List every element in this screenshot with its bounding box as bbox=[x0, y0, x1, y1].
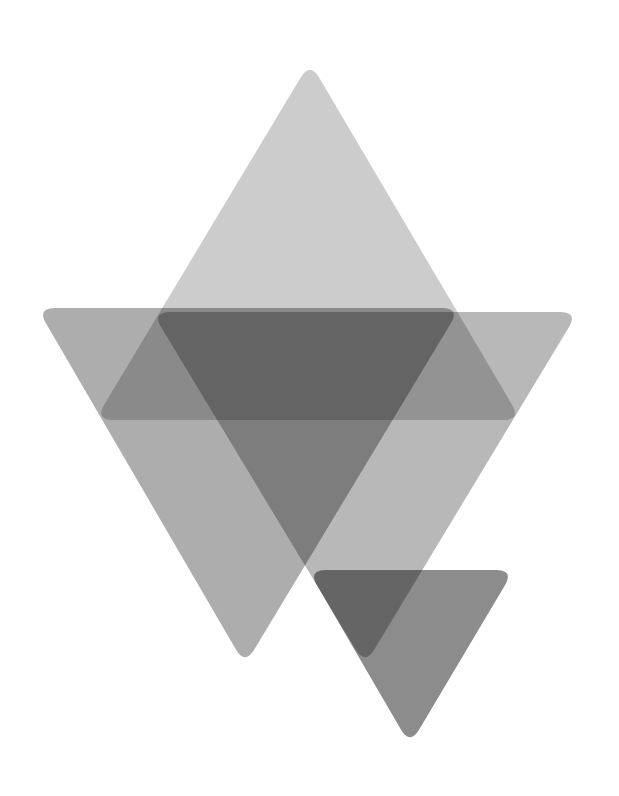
geometric-triangles-artwork bbox=[0, 0, 619, 796]
small-inverted-triangle bbox=[314, 570, 508, 737]
